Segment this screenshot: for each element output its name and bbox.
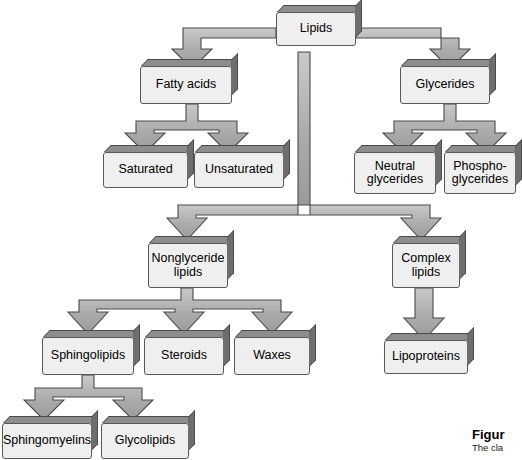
node-glycolipids-label: Glycolipids xyxy=(112,434,178,448)
node-phospho-glycerides[interactable]: Phospho- glycerides xyxy=(444,152,516,194)
node-lipoproteins-label: Lipoproteins xyxy=(389,350,463,364)
node-steroids[interactable]: Steroids xyxy=(144,337,224,375)
node-sphingolipids[interactable]: Sphingolipids xyxy=(42,337,134,375)
node-unsaturated[interactable]: Unsaturated xyxy=(194,152,284,188)
node-nonglyceride-lipids[interactable]: Nonglyceride lipids xyxy=(148,243,228,288)
figure-caption-body: The cla xyxy=(472,442,522,453)
node-lipids[interactable]: Lipids xyxy=(276,12,356,46)
node-fatty-acids[interactable]: Fatty acids xyxy=(140,66,232,104)
node-waxes-label: Waxes xyxy=(250,349,294,363)
node-phospho-glycerides-label: Phospho- glycerides xyxy=(449,160,511,187)
node-nonglyceride-lipids-label: Nonglyceride lipids xyxy=(149,252,228,279)
node-fatty-acids-label: Fatty acids xyxy=(153,78,219,92)
node-glycerides[interactable]: Glycerides xyxy=(400,66,490,104)
node-unsaturated-label: Unsaturated xyxy=(202,163,276,177)
node-sphingomyelins[interactable]: Sphingomyelins xyxy=(2,423,92,459)
node-complex-lipids[interactable]: Complex lipids xyxy=(392,243,460,288)
arrow-nonglyceride-to-three-children xyxy=(68,288,292,334)
node-waxes[interactable]: Waxes xyxy=(234,337,310,375)
node-neutral-glycerides[interactable]: Neutral glycerides xyxy=(354,152,436,194)
node-saturated[interactable]: Saturated xyxy=(103,152,188,188)
node-neutral-glycerides-label: Neutral glycerides xyxy=(364,160,426,187)
node-lipids-label: Lipids xyxy=(297,22,336,36)
node-saturated-label: Saturated xyxy=(115,163,175,177)
flowchart-canvas: Lipids Fatty acids Glycerides Saturated … xyxy=(0,0,522,460)
arrow-trunk-to-nonglyceride-complex xyxy=(167,205,441,240)
figure-caption-title: Figur xyxy=(472,428,522,442)
arrow-lipids-to-lower-trunk xyxy=(298,52,310,205)
node-sphingolipids-label: Sphingolipids xyxy=(48,349,128,363)
node-glycolipids[interactable]: Glycolipids xyxy=(101,423,189,459)
arrow-sphingolipids-to-children xyxy=(24,375,153,420)
node-sphingomyelins-label: Sphingomyelins xyxy=(0,434,94,448)
figure-caption: Figur The cla xyxy=(472,428,522,460)
node-complex-lipids-label: Complex lipids xyxy=(398,252,453,279)
node-lipoproteins[interactable]: Lipoproteins xyxy=(384,340,468,374)
node-glycerides-label: Glycerides xyxy=(412,78,477,92)
node-steroids-label: Steroids xyxy=(158,349,210,363)
